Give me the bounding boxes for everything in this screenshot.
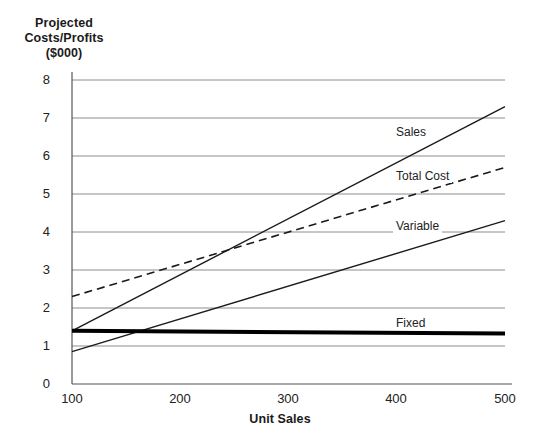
series-line-fixed	[72, 331, 505, 334]
chart-container: Projected Costs/Profits ($000) 8 7 6 5 4…	[0, 0, 533, 438]
series-label-fixed: Fixed	[393, 316, 428, 330]
gridlines	[72, 80, 505, 346]
series-label-variable: Variable	[393, 219, 442, 233]
series-label-sales: Sales	[393, 125, 429, 139]
series-label-total-cost: Total Cost	[393, 169, 452, 183]
chart-plot-svg	[0, 0, 533, 438]
